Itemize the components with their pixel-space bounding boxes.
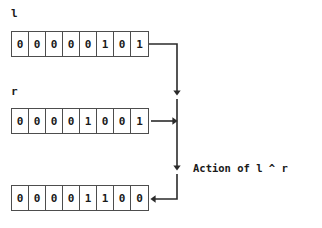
bit-cell: 0 [29,109,46,133]
bit-row-operand-l: 0 0 0 0 0 1 0 1 [11,31,149,57]
bit-cell: 0 [114,186,131,210]
bit-row-result: 0 0 0 0 1 1 0 0 [11,185,149,211]
operand-label-l: l [11,8,18,19]
bit-cell: 0 [46,186,63,210]
bit-cell: 0 [63,109,80,133]
operand-label-r: r [11,86,18,97]
bit-cell: 1 [131,32,148,56]
bit-cell: 0 [63,32,80,56]
bit-cell: 0 [12,109,29,133]
bit-cell: 0 [12,186,29,210]
bit-cell: 0 [12,32,29,56]
bit-cell: 1 [97,32,114,56]
bit-cell: 1 [80,186,97,210]
connector-from-operand-l [149,44,177,93]
bit-cell: 0 [114,109,131,133]
bit-cell: 0 [80,32,97,56]
bit-cell: 1 [97,186,114,210]
connector-to-result [153,174,177,199]
bit-row-operand-r: 0 0 0 0 1 0 0 1 [11,108,149,134]
bit-cell: 0 [29,186,46,210]
xor-diagram: l 0 0 0 0 0 1 0 1 r 0 0 0 0 1 0 0 1 0 0 … [0,0,322,228]
bit-cell: 1 [131,109,148,133]
bit-cell: 0 [114,32,131,56]
operation-caption: Action of l ^ r [193,163,288,174]
bit-cell: 0 [29,32,46,56]
bit-cell: 0 [63,186,80,210]
bit-cell: 0 [131,186,148,210]
bit-cell: 0 [46,109,63,133]
bit-cell: 0 [46,32,63,56]
bit-cell: 1 [80,109,97,133]
bit-cell: 0 [97,109,114,133]
